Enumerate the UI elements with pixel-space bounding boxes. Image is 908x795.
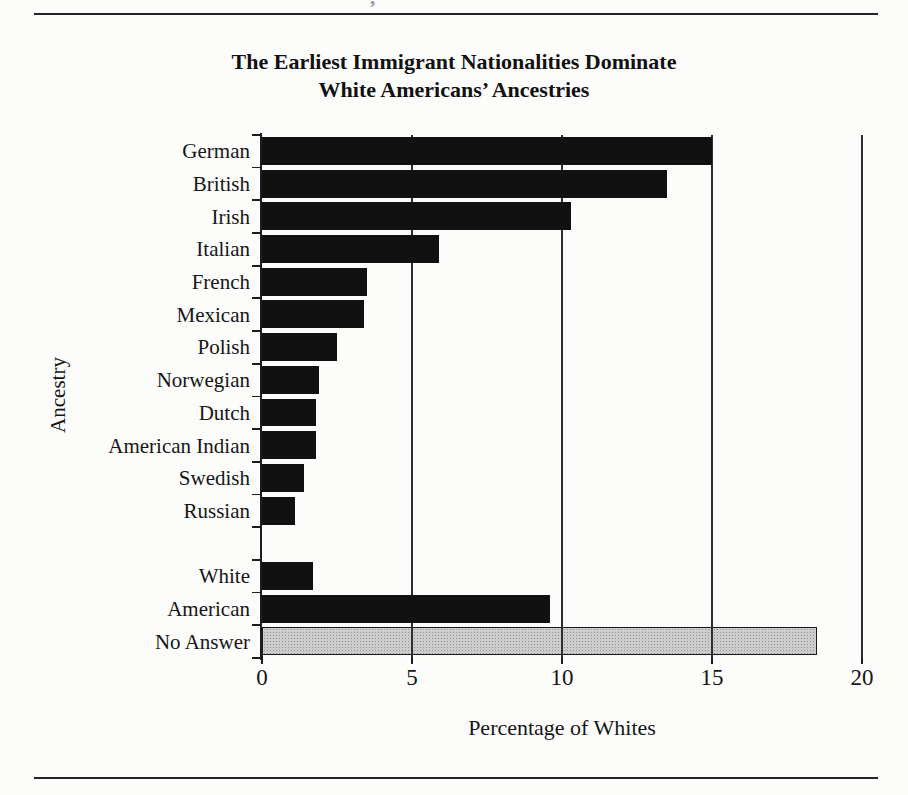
x-tick-label-0: 0 <box>256 665 268 691</box>
category-label-american-indian: American Indian <box>0 435 250 456</box>
gridline-15 <box>711 135 713 658</box>
y-axis-tick <box>252 624 261 626</box>
scanned-book-page: { "page": { "cropped_text_fragment": ","… <box>0 0 908 795</box>
y-axis-tick <box>252 232 261 234</box>
y-axis-tick <box>252 526 261 528</box>
category-label-white: White <box>0 566 250 587</box>
y-axis-tick <box>252 428 261 430</box>
category-label-mexican: Mexican <box>0 304 250 325</box>
chart-title-line1: The Earliest Immigrant Nationalities Dom… <box>0 48 908 76</box>
y-axis-tick <box>252 297 261 299</box>
category-label-dutch: Dutch <box>0 402 250 423</box>
y-axis-tick <box>252 363 261 365</box>
category-label-french: French <box>0 272 250 293</box>
y-axis-tick <box>252 330 261 332</box>
category-label-norwegian: Norwegian <box>0 370 250 391</box>
y-axis-tick <box>252 265 261 267</box>
category-label-russian: Russian <box>0 500 250 521</box>
y-axis-tick <box>252 199 261 201</box>
plot-area <box>262 135 862 658</box>
y-axis-tick <box>252 657 261 659</box>
bar-mexican <box>262 300 364 328</box>
gridline-20 <box>861 135 863 658</box>
y-axis-tick <box>252 134 261 136</box>
bar-dutch <box>262 399 316 427</box>
bar-norwegian <box>262 366 319 394</box>
category-label-irish: Irish <box>0 206 250 227</box>
category-label-polish: Polish <box>0 337 250 358</box>
cropped-text-glyph: , <box>370 0 381 7</box>
y-axis-tick <box>252 559 261 561</box>
bar-white <box>262 562 313 590</box>
y-axis-tick <box>252 167 261 169</box>
bar-italian <box>262 235 439 263</box>
bar-irish <box>262 202 571 230</box>
category-label-no-answer: No Answer <box>0 631 250 652</box>
y-axis-tick <box>252 494 261 496</box>
x-axis-label: Percentage of Whites <box>468 715 656 741</box>
chart-title-line2: White Americans’ Ancestries <box>0 76 908 104</box>
x-tick-label-5: 5 <box>406 665 418 691</box>
bar-polish <box>262 333 337 361</box>
category-label-british: British <box>0 174 250 195</box>
cropped-text-fragment: , <box>300 0 480 7</box>
bar-russian <box>262 497 295 525</box>
bar-german <box>262 137 712 165</box>
category-label-swedish: Swedish <box>0 468 250 489</box>
y-axis-tick <box>252 461 261 463</box>
category-label-german: German <box>0 141 250 162</box>
x-axis-tick-0 <box>261 655 263 664</box>
category-label-italian: Italian <box>0 239 250 260</box>
category-label-american: American <box>0 598 250 619</box>
bar-french <box>262 268 367 296</box>
top-page-rule <box>34 13 878 15</box>
y-axis-tick <box>252 396 261 398</box>
y-axis-tick <box>252 592 261 594</box>
bar-no-answer <box>262 627 817 655</box>
bar-american <box>262 595 550 623</box>
chart-title: The Earliest Immigrant Nationalities Dom… <box>0 48 908 104</box>
bar-british <box>262 170 667 198</box>
x-tick-label-10: 10 <box>551 665 574 691</box>
x-tick-label-15: 15 <box>701 665 724 691</box>
y-axis-label: Ancestry <box>46 357 71 433</box>
bottom-page-rule <box>34 777 878 779</box>
x-tick-label-20: 20 <box>851 665 874 691</box>
bar-swedish <box>262 464 304 492</box>
bar-american-indian <box>262 431 316 459</box>
